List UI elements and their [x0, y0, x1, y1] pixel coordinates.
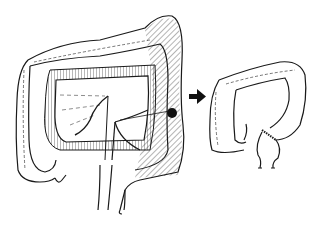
lesion-marker [167, 108, 177, 118]
colon-before [16, 16, 184, 214]
anastomosis-suture [262, 130, 276, 140]
colon-resection-illustration [0, 0, 310, 225]
colon-after [210, 62, 306, 168]
arrow-right-icon [189, 89, 206, 104]
diagram [0, 0, 310, 225]
